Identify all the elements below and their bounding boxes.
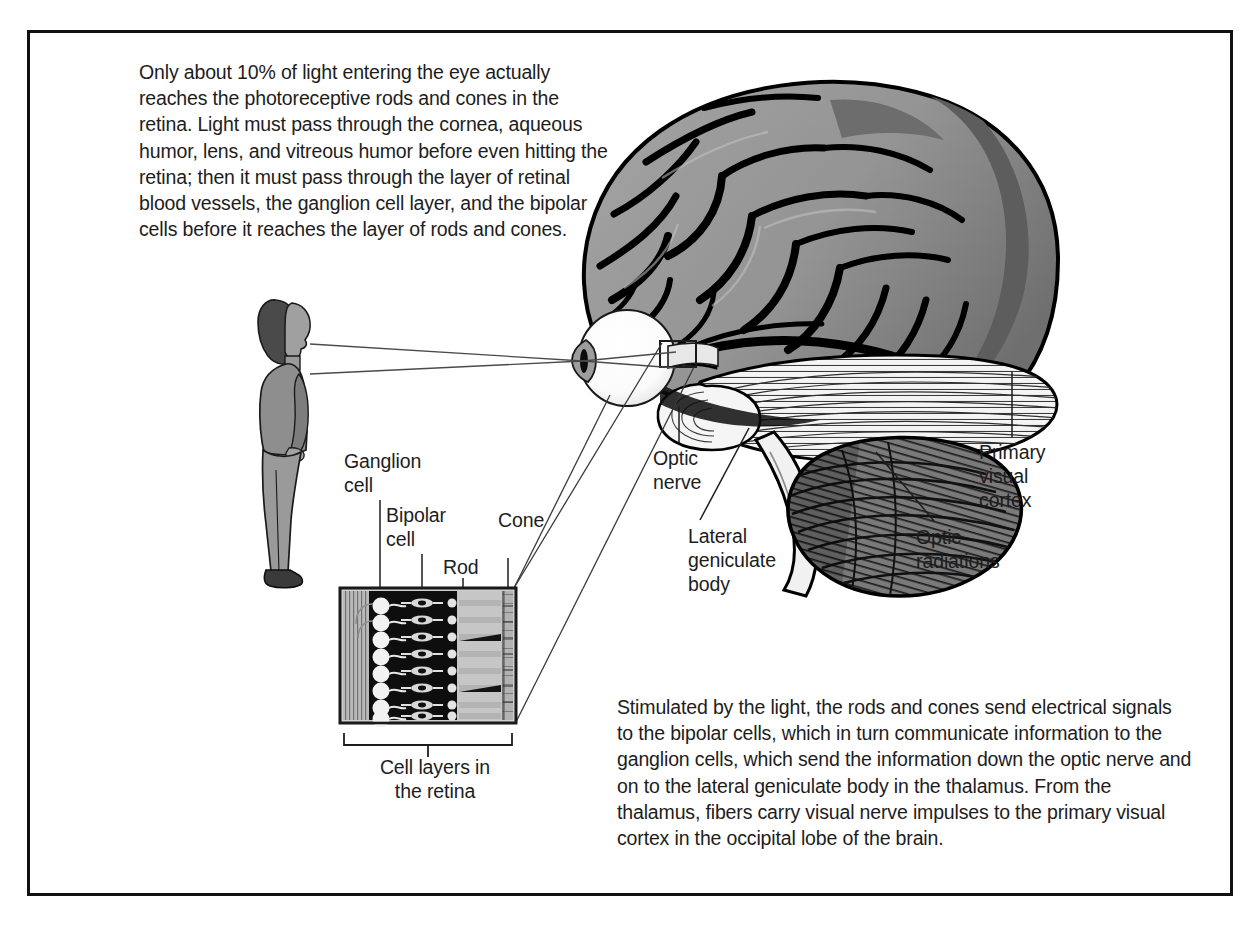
label-bipolar-cell: Bipolar cell bbox=[386, 503, 446, 551]
label-ganglion-cell: Ganglion cell bbox=[344, 449, 421, 497]
label-optic-nerve: Optic nerve bbox=[653, 446, 701, 494]
intro-paragraph: Only about 10% of light entering the eye… bbox=[139, 59, 609, 242]
label-cell-layers-caption: Cell layers in the retina bbox=[360, 755, 510, 803]
label-lateral-geniculate-body: Lateral geniculate body bbox=[688, 524, 776, 596]
label-primary-visual-cortex: Primary visual cortex bbox=[979, 440, 1045, 512]
figure-root: Only about 10% of light entering the eye… bbox=[0, 0, 1255, 935]
label-rod: Rod bbox=[443, 555, 478, 579]
summary-paragraph: Stimulated by the light, the rods and co… bbox=[617, 694, 1192, 851]
label-optic-radiations: Optic radiations bbox=[916, 525, 1000, 573]
label-cone: Cone bbox=[498, 508, 544, 532]
